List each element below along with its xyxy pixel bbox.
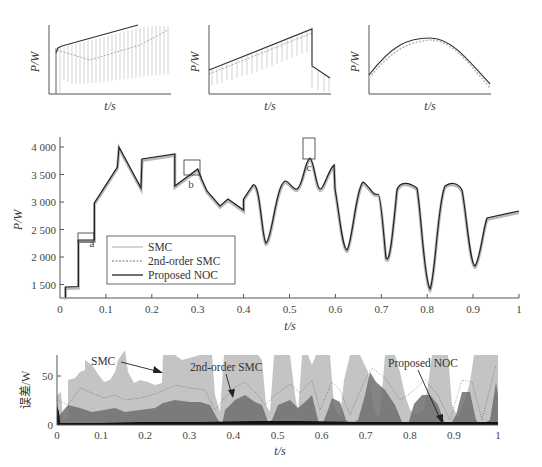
inset-c-xlabel: t/s [424, 99, 436, 113]
x-tick: 0.2 [145, 303, 159, 315]
err-y-tick: 50 [42, 370, 54, 382]
region-a-label: a [90, 237, 95, 249]
x-tick: 0.1 [99, 303, 113, 315]
x-tick: 0.7 [374, 303, 388, 315]
y-tick: 3 500 [31, 169, 56, 181]
legend-smc: SMC [148, 241, 173, 253]
annotation-smc: SMC [91, 355, 116, 367]
inset-a-xlabel: t/s [104, 99, 116, 113]
annotation-proposed-noc: Proposed NOC [388, 357, 458, 370]
x-tick: 0.5 [283, 303, 297, 315]
err-ylabel: 误差/W [19, 370, 33, 409]
y-tick: 1 500 [31, 279, 56, 291]
err-y-tick: 0 [48, 419, 54, 431]
err-x-tick: 1 [495, 429, 501, 441]
inset-b-ylabel: P/W [188, 51, 202, 74]
x-tick: 0.6 [329, 303, 343, 315]
y-tick: 4 000 [31, 141, 56, 153]
x-tick: 0.9 [466, 303, 480, 315]
x-tick: 0.3 [191, 303, 205, 315]
main-ylabel: P/W [11, 209, 25, 232]
region-c-box [303, 138, 315, 159]
err-x-tick: 0.3 [182, 429, 196, 441]
main-xlabel: t/s [284, 319, 296, 333]
inset-c: P/W t/s [348, 25, 491, 113]
err-x-tick: 0.2 [138, 429, 152, 441]
err-x-tick: 0.1 [94, 429, 108, 441]
x-tick: 0.8 [420, 303, 434, 315]
err-x-tick: 0.5 [271, 429, 285, 441]
inset-b: P/W t/s [188, 25, 331, 113]
inset-a: P/W t/s [28, 25, 171, 113]
y-tick: 3 000 [31, 196, 56, 208]
legend: SMC 2nd-order SMC Proposed NOC [107, 236, 235, 284]
x-tick: 1 [516, 303, 522, 315]
err-xlabel: t/s [274, 444, 286, 458]
err-x-tick: 0.6 [315, 429, 329, 441]
main-power-plot: 4 000 3 500 3 000 2 500 2 000 1 500 0 0.… [11, 137, 522, 333]
inset-c-ylabel: P/W [348, 51, 362, 74]
region-b-label: b [188, 178, 194, 190]
x-tick: 0.4 [237, 303, 251, 315]
x-tick: 0 [57, 303, 63, 315]
err-x-tick: 0 [54, 429, 60, 441]
error-plot: 50 0 0 0.1 0.2 0.3 0.4 0.5 0.6 0.7 0.8 0… [19, 350, 501, 458]
err-x-tick: 0.9 [447, 429, 461, 441]
arrow-icon [153, 366, 163, 373]
err-x-tick: 0.4 [227, 429, 241, 441]
y-tick: 2 500 [31, 224, 56, 236]
inset-b-xlabel: t/s [264, 99, 276, 113]
figure: P/W t/s P/W t/s P/W t/s 4 000 [0, 0, 542, 467]
inset-a-ylabel: P/W [28, 51, 42, 74]
annotation-2nd-order-smc: 2nd-order SMC [190, 361, 263, 373]
region-c-label: c [307, 161, 312, 173]
err-x-tick: 0.8 [403, 429, 417, 441]
y-tick: 2 000 [31, 251, 56, 263]
legend-proposed-noc: Proposed NOC [148, 269, 218, 282]
err-x-tick: 0.7 [359, 429, 373, 441]
legend-2nd-order-smc: 2nd-order SMC [148, 255, 221, 267]
